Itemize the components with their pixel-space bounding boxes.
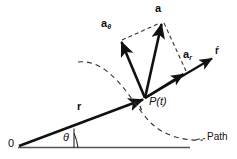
angle-arc: [74, 134, 78, 148]
acceleration-vector-a[interactable]: [145, 24, 162, 98]
angle-label: θ: [63, 132, 69, 143]
parallelogram-dashed-top: [122, 23, 160, 40]
p-marker-tick: [140, 106, 142, 110]
path-label-leader: [196, 139, 205, 140]
r-unit-vector-label: ŕ: [215, 46, 219, 56]
transverse-component-label: aθ: [101, 18, 111, 30]
acceleration-label: a: [155, 3, 161, 14]
vector-diagram-svg: [0, 0, 237, 159]
parallelogram-dashed-right: [164, 23, 186, 71]
origin-label: 0: [8, 138, 14, 149]
radial-component-label: ar: [183, 49, 192, 61]
path-label: Path: [207, 132, 228, 142]
diagram-canvas: a aθ ar ŕ r P(t) θ 0 Path: [0, 0, 237, 159]
transverse-subscript: θ: [107, 23, 111, 30]
radial-subscript: r: [189, 54, 192, 61]
point-label: P(t): [149, 96, 167, 107]
position-vector-label: r: [77, 101, 81, 112]
